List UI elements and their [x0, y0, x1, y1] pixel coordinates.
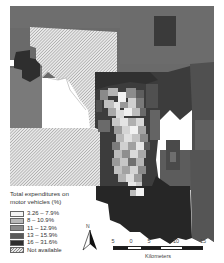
legend-swatch-class4 — [10, 233, 24, 239]
scale-tick: 5 — [111, 238, 114, 244]
legend-items: 3.26 – 7.9% 8 – 10.9% 11 – 12.9% 13 – 15… — [10, 210, 120, 254]
scale-bar-graphic — [113, 246, 203, 250]
scale-ticks: 5 0 5 10 15 — [113, 238, 203, 245]
legend-item: Not available — [10, 246, 120, 253]
legend-item: 8 – 10.9% — [10, 217, 120, 224]
scale-unit-label: Kilometers — [113, 253, 203, 259]
legend-label: 8 – 10.9% — [27, 217, 54, 224]
legend-title-line1: Total expenditures on — [10, 190, 120, 198]
north-arrow-icon — [80, 224, 100, 254]
scale-tick: 5 — [147, 238, 150, 244]
scale-tick: 10 — [173, 238, 179, 244]
legend-title-line2: motor vehicles (%) — [10, 198, 120, 206]
legend-label: 11 – 12.9% — [27, 225, 57, 232]
legend-label: 13 – 15.9% — [27, 232, 57, 239]
legend-swatch-class3 — [10, 225, 24, 231]
legend-swatch-class2 — [10, 218, 24, 224]
legend: Total expenditures on motor vehicles (%)… — [10, 190, 120, 254]
legend-item: 16 – 31.6% — [10, 239, 120, 246]
legend-swatch-not-available — [10, 247, 24, 253]
legend-item: 3.26 – 7.9% — [10, 210, 120, 217]
legend-label: Not available — [27, 247, 62, 254]
scale-bar: 5 0 5 10 15 Kilometers — [113, 238, 203, 259]
legend-swatch-class1 — [10, 211, 24, 217]
scale-tick: 0 — [129, 238, 132, 244]
legend-swatch-class5 — [10, 240, 24, 246]
legend-item: 13 – 15.9% — [10, 232, 120, 239]
legend-title: Total expenditures on motor vehicles (%) — [10, 190, 120, 206]
scale-tick: 15 — [200, 238, 206, 244]
legend-label: 16 – 31.6% — [27, 239, 57, 246]
legend-label: 3.26 – 7.9% — [27, 210, 59, 217]
legend-item: 11 – 12.9% — [10, 225, 120, 232]
